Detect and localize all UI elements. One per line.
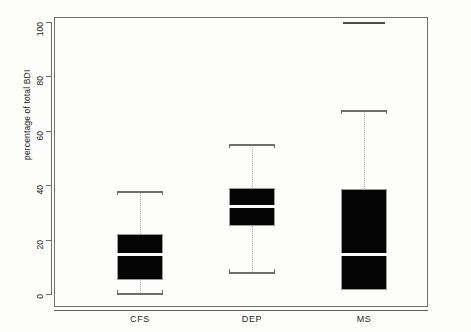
x-tick-label-cfs: CFS xyxy=(130,314,150,324)
outlier-ms-0 xyxy=(343,22,385,24)
whisker-cap-upper-ms-serif-1 xyxy=(386,110,387,114)
whisker-cap-upper-ms xyxy=(341,110,387,112)
box-ms xyxy=(341,189,387,290)
median-ms xyxy=(341,253,387,256)
x-tick-label-dep: DEP xyxy=(242,314,262,324)
boxplot-figure: percentage of total BDI 020406080100 CFS… xyxy=(0,0,471,332)
boxplot-group-ms xyxy=(0,0,471,332)
x-tick-label-ms: MS xyxy=(357,314,372,324)
x-axis-line xyxy=(54,310,428,311)
whisker-cap-upper-ms-serif-0 xyxy=(341,110,342,114)
whisker-upper-ms xyxy=(364,110,366,189)
